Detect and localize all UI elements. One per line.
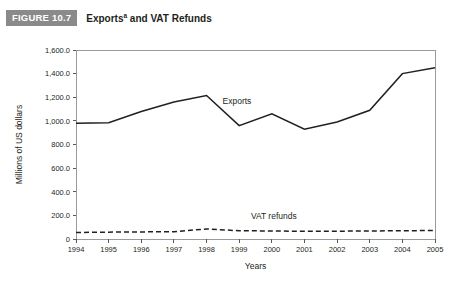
x-tick-label: 2004	[394, 245, 411, 254]
x-tick-label: 1999	[231, 245, 248, 254]
figure-header: FIGURE 10.7 Exportsa and VAT Refunds	[0, 8, 451, 28]
data-series-group	[76, 68, 435, 233]
x-tick-label: 1997	[166, 245, 183, 254]
y-tick-label: 200.0	[51, 211, 70, 220]
series-label-vat-refunds: VAT refunds	[251, 211, 297, 221]
x-tick-label: 1996	[133, 245, 150, 254]
x-axis-ticks: 1994199519961997199819992000200120022003…	[68, 239, 444, 254]
x-axis-title: Years	[245, 261, 266, 271]
figure-title: Exportsa and VAT Refunds	[86, 13, 212, 24]
y-tick-label: 1,000.0	[45, 117, 70, 126]
x-tick-label: 2001	[296, 245, 313, 254]
series-annotation-labels: ExportsVAT refunds	[223, 96, 297, 220]
x-tick-label: 2000	[263, 245, 280, 254]
figure-number-badge: FIGURE 10.7	[6, 10, 77, 26]
line-chart: 1,600.01,400.01,200.01,000.0800.0600.040…	[0, 28, 451, 282]
y-tick-label: 1,200.0	[45, 93, 70, 102]
figure-title-main: Exports	[86, 13, 123, 24]
y-tick-label: 400.0	[51, 188, 70, 197]
y-tick-label: 600.0	[51, 164, 70, 173]
y-axis-title: Millions of US dollars	[14, 105, 24, 184]
x-tick-label: 1998	[198, 245, 215, 254]
y-tick-label: 0	[66, 235, 70, 244]
series-label-exports: Exports	[223, 96, 252, 106]
series-line-vat-refunds	[76, 229, 435, 233]
figure-title-rest: and VAT Refunds	[127, 13, 212, 24]
y-axis-ticks: 1,600.01,400.01,200.01,000.0800.0600.040…	[45, 46, 76, 244]
y-tick-label: 1,600.0	[45, 46, 70, 55]
figure-container: FIGURE 10.7 Exportsa and VAT Refunds 1,6…	[0, 0, 451, 282]
y-tick-label: 1,400.0	[45, 69, 70, 78]
y-tick-label: 800.0	[51, 140, 70, 149]
x-tick-label: 1994	[68, 245, 85, 254]
x-tick-label: 2005	[427, 245, 444, 254]
x-tick-label: 1995	[100, 245, 117, 254]
x-tick-label: 2003	[361, 245, 378, 254]
series-line-exports	[76, 68, 435, 129]
x-tick-label: 2002	[329, 245, 346, 254]
